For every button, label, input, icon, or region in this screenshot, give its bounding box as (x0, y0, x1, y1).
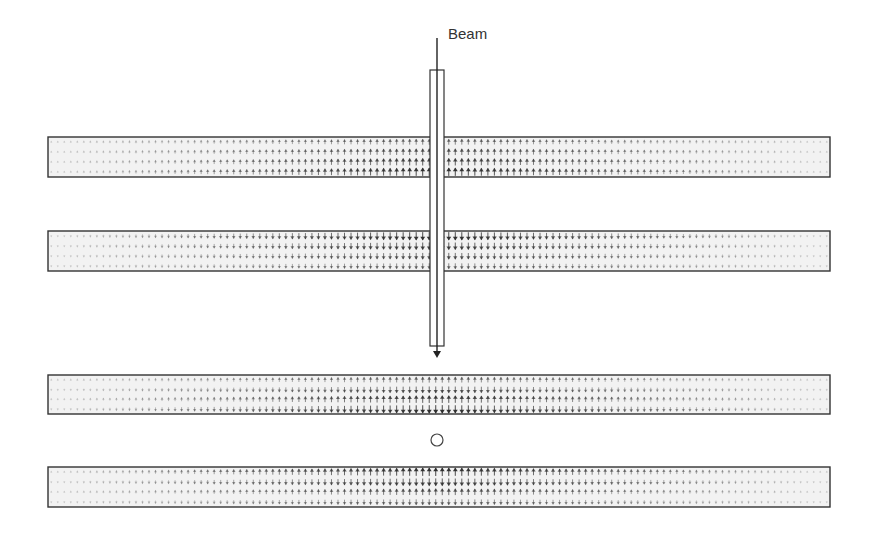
arrow-down-icon (433, 351, 441, 358)
beam-pipe (430, 38, 444, 358)
particle-marker (431, 434, 443, 446)
beam-label: Beam (448, 25, 487, 42)
beam-diagram (0, 0, 875, 538)
particle-circle-icon (431, 434, 443, 446)
plate-lower-pair-bottom (48, 467, 830, 507)
plate-lower-pair-top (48, 375, 830, 414)
